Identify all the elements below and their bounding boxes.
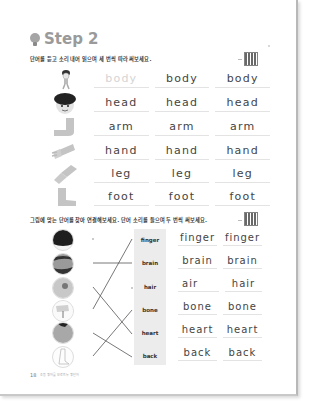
page-number: 18 [30,372,36,378]
write-word[interactable]: bone [223,298,262,315]
write-word[interactable]: brain [178,252,217,269]
match-word-hair[interactable]: hair [134,284,166,290]
word-bank [134,229,166,365]
write-row-bone: bone bone [178,298,262,316]
write-word[interactable]: hair [225,275,262,292]
write-row-hair: air hair [178,275,262,293]
write-word[interactable]: back [223,344,262,361]
match-word-brain[interactable]: brain [134,260,166,266]
write-word[interactable]: bone [178,298,217,315]
write-row-heart: heart heart [178,321,262,339]
write-word[interactable]: air [178,275,219,292]
footer-text: 초등 영어를 보로트뉴 영단어 [40,373,79,377]
write-word[interactable]: finger [223,229,262,246]
write-word[interactable]: finger [178,229,217,246]
worksheet-page: Step 2 단어를 듣고 소리 내어 읽으며 세 번씩 따라 써보세요. [0,0,298,396]
write-word[interactable]: heart [178,321,217,338]
match-word-finger[interactable]: finger [134,237,166,243]
write-row-finger: finger finger [178,229,262,247]
match-word-bone[interactable]: bone [134,307,166,313]
write-word[interactable]: heart [223,321,262,338]
write-row-brain: brain brain [178,252,262,270]
write-word[interactable]: brain [223,252,262,269]
write-row-back: back back [178,344,262,362]
write-word[interactable]: back [178,344,217,361]
match-word-back[interactable]: back [134,353,166,359]
match-word-heart[interactable]: heart [134,330,166,336]
